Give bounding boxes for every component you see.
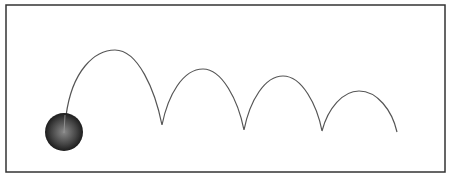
bouncing-ball-diagram (0, 0, 450, 181)
